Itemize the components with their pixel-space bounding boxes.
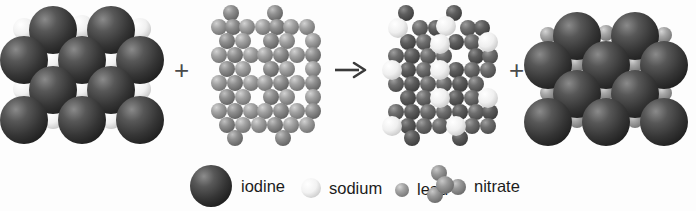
nitrate-cluster-icon xyxy=(424,165,468,205)
sodium-sphere-icon xyxy=(300,177,322,199)
legend-label-nitrate: nitrate xyxy=(474,177,520,196)
lead-nitrate-crystal xyxy=(209,4,325,146)
reaction-diagram: + xyxy=(0,0,696,211)
lead-nitrate-spheres xyxy=(211,5,321,146)
plus-operator-2: + xyxy=(509,57,524,83)
sodium-nitrate-crystal xyxy=(378,4,500,146)
legend: iodine sodium xyxy=(0,155,696,211)
legend-item-nitrate: nitrate xyxy=(424,165,520,205)
plus-operator-1: + xyxy=(174,57,189,83)
arrow-icon xyxy=(335,63,365,77)
iodine-sphere-icon xyxy=(188,163,234,209)
legend-item-sodium: sodium xyxy=(300,177,382,199)
reaction-arrow xyxy=(334,60,368,80)
legend-label-sodium: sodium xyxy=(329,179,382,198)
sodium-iodide-crystal xyxy=(0,0,172,150)
lead-sphere-icon xyxy=(394,182,410,198)
legend-label-iodine: iodine xyxy=(241,177,285,196)
lead-iodide-crystal xyxy=(528,8,694,148)
legend-item-iodine: iodine xyxy=(188,163,285,209)
